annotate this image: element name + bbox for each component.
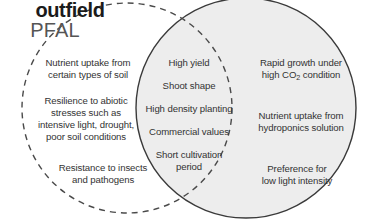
set-title-pfal: PFAL (0, 20, 110, 40)
rapid-growth-line2-pre: high CO (262, 69, 297, 80)
overlap-item-high-density-planting: High density planting (141, 103, 237, 115)
overlap-item-high-yield: High yield (145, 57, 233, 69)
overlap-item-commercial-values: Commercial values (143, 126, 235, 138)
left-item-resilience-abiotic: Resilience to abiotic stresses such as i… (22, 95, 150, 143)
co2-subscript: 2 (296, 73, 300, 82)
overlap-item-shoot-shape: Shoot shape (145, 80, 233, 92)
rapid-growth-line2-post: condition (300, 69, 340, 80)
left-item-nutrient-uptake-soil: Nutrient uptake from certain types of so… (26, 57, 150, 81)
rapid-growth-line1: Rapid growth under (260, 57, 342, 68)
right-item-rapid-growth-co2: Rapid growth underhigh CO2 condition (239, 57, 363, 81)
overlap-item-short-cultivation-period: Short cultivation period (145, 149, 233, 173)
set-title-outfield: outfield (0, 0, 140, 20)
venn-diagram: outfield PFAL Nutrient uptake from certa… (0, 0, 375, 221)
right-item-nutrient-uptake-hydroponics: Nutrient uptake from hydroponics solutio… (237, 110, 365, 134)
right-item-preference-low-light: Preference for low light intensity (237, 163, 357, 187)
